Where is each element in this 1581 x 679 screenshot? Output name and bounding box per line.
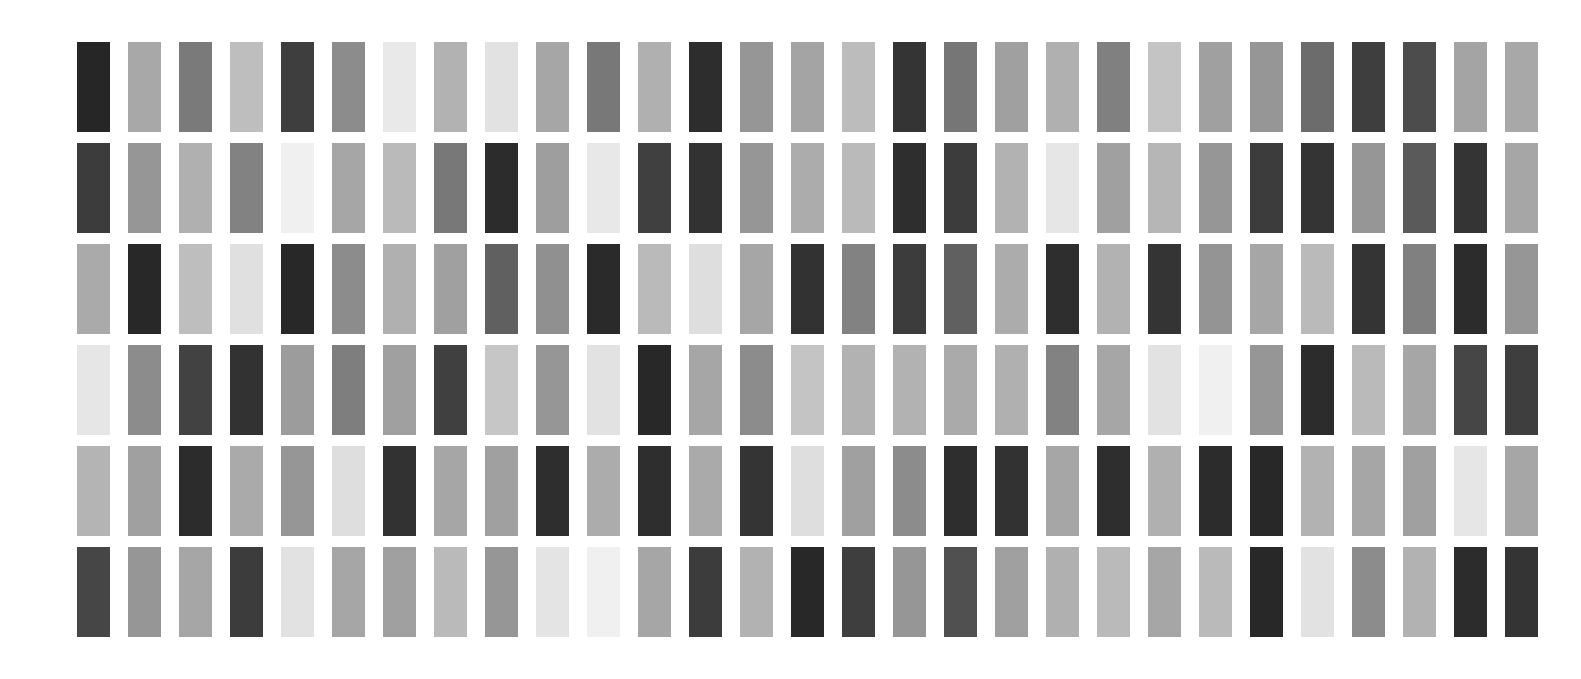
bar-cell [1301, 446, 1334, 536]
bar-cell [791, 345, 824, 435]
bar-cell [1046, 143, 1079, 233]
bar-cell [1199, 42, 1232, 132]
bar-cell [77, 345, 110, 435]
bar-cell [638, 547, 671, 637]
bar-cell [536, 42, 569, 132]
bar-cell [1301, 547, 1334, 637]
bar-cell [1352, 42, 1385, 132]
bar-cell [689, 143, 722, 233]
bar-cell [740, 345, 773, 435]
bar-cell [1505, 345, 1538, 435]
bar-cell [485, 143, 518, 233]
bar-cell [995, 143, 1028, 233]
bar-cell [1505, 244, 1538, 334]
bar-cell [842, 143, 875, 233]
bar-cell [1352, 345, 1385, 435]
bar-cell [1046, 345, 1079, 435]
bar-cell [842, 42, 875, 132]
bar-cell [536, 547, 569, 637]
bar-cell [128, 42, 161, 132]
bar-cell [485, 446, 518, 536]
bar-cell [434, 345, 467, 435]
bar-cell [1046, 42, 1079, 132]
bar-cell [128, 345, 161, 435]
bar-cell [1403, 244, 1436, 334]
bar-cell [893, 244, 926, 334]
bar-cell [1097, 446, 1130, 536]
bar-cell [587, 143, 620, 233]
bar-cell [944, 42, 977, 132]
bar-cell [638, 143, 671, 233]
bar-cell [638, 42, 671, 132]
bar-cell [128, 446, 161, 536]
bar-cell [485, 547, 518, 637]
bar-cell [791, 42, 824, 132]
bar-cell [1403, 143, 1436, 233]
bar-cell [1352, 143, 1385, 233]
bar-cell [638, 446, 671, 536]
bar-cell [1403, 547, 1436, 637]
bar-cell [1250, 547, 1283, 637]
bar-cell [383, 143, 416, 233]
bar-cell [1301, 345, 1334, 435]
bar-cell [689, 446, 722, 536]
bar-cell [689, 42, 722, 132]
bar-cell [638, 244, 671, 334]
bar-cell [1352, 446, 1385, 536]
bar-cell [995, 446, 1028, 536]
bar-cell [434, 547, 467, 637]
bar-cell [587, 42, 620, 132]
bar-cell [1250, 143, 1283, 233]
bar-cell [842, 446, 875, 536]
bar-cell [1250, 446, 1283, 536]
bar-row [0, 345, 1581, 435]
bar-cell [1301, 42, 1334, 132]
bar-cell [1352, 547, 1385, 637]
bar-cell [740, 42, 773, 132]
bar-cell [281, 42, 314, 132]
bar-cell [230, 244, 263, 334]
bar-row [0, 244, 1581, 334]
bar-cell [383, 345, 416, 435]
bar-cell [434, 42, 467, 132]
bar-cell [281, 244, 314, 334]
bar-cell [1250, 42, 1283, 132]
bar-cell [281, 345, 314, 435]
bar-cell [230, 547, 263, 637]
bar-cell [1199, 547, 1232, 637]
bar-cell [1454, 143, 1487, 233]
bar-cell [1097, 244, 1130, 334]
bar-cell [332, 42, 365, 132]
bar-cell [740, 446, 773, 536]
bar-cell [995, 345, 1028, 435]
bar-cell [230, 143, 263, 233]
bar-cell [1250, 345, 1283, 435]
bar-cell [332, 244, 365, 334]
bar-cell [383, 42, 416, 132]
bar-cell [179, 42, 212, 132]
bar-cell [1301, 244, 1334, 334]
bar-cell [1148, 42, 1181, 132]
bar-cell [689, 547, 722, 637]
bar-cell [1250, 244, 1283, 334]
bar-cell [1199, 446, 1232, 536]
bar-cell [893, 547, 926, 637]
bar-cell [1403, 446, 1436, 536]
bar-cell [1097, 547, 1130, 637]
bar-cell [332, 547, 365, 637]
bar-cell [281, 143, 314, 233]
bar-cell [230, 446, 263, 536]
bar-cell [995, 547, 1028, 637]
bar-cell [77, 547, 110, 637]
bar-cell [1403, 42, 1436, 132]
bar-cell [587, 547, 620, 637]
bar-cell [1454, 446, 1487, 536]
bar-cell [1097, 143, 1130, 233]
bar-cell [383, 244, 416, 334]
bar-cell [536, 143, 569, 233]
bar-cell [383, 446, 416, 536]
bar-cell [1046, 547, 1079, 637]
bar-cell [179, 244, 212, 334]
bar-cell [1505, 42, 1538, 132]
bar-cell [179, 446, 212, 536]
